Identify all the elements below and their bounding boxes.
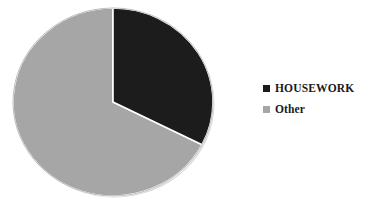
square-marker-icon [263, 106, 270, 113]
legend-item-label: Other [275, 103, 305, 116]
legend-item-other[interactable]: Other [263, 99, 371, 120]
legend-item-housework[interactable]: HOUSEWORK [263, 78, 371, 99]
chart-legend: HOUSEWORK Other [263, 78, 371, 120]
legend-item-label: HOUSEWORK [275, 82, 354, 95]
pie-chart: HOUSEWORK Other [0, 0, 371, 203]
square-marker-icon [263, 85, 270, 92]
